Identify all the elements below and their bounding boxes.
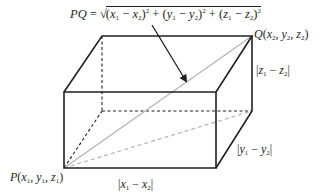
distance-formula: PQ = √(x1 − x2)2 + (y1 − y2)2 + (z1 − z2… [70,6,261,22]
base-diagonal [64,111,252,168]
top-face-back-edges [64,36,252,92]
radicand: (x1 − x2)2 + (y1 − y2)2 + (z1 − z2)2 [106,6,261,22]
point-p-label: P(x1, y1, z1) [10,171,63,185]
space-diagonal-pq [64,36,252,168]
formula-equals: = [90,7,97,21]
hidden-edge-depth [64,111,102,168]
edge-label-y: |y1 − y2| [237,143,272,157]
formula-lhs: PQ [70,7,87,21]
formula-pointer-arrow [152,25,186,81]
edge-label-z: |z1 − z2| [256,64,290,78]
front-face [64,92,216,168]
point-q-label: Q(x2, y2, z2) [254,28,309,42]
edge-label-x: |x1 − x2| [118,178,153,192]
